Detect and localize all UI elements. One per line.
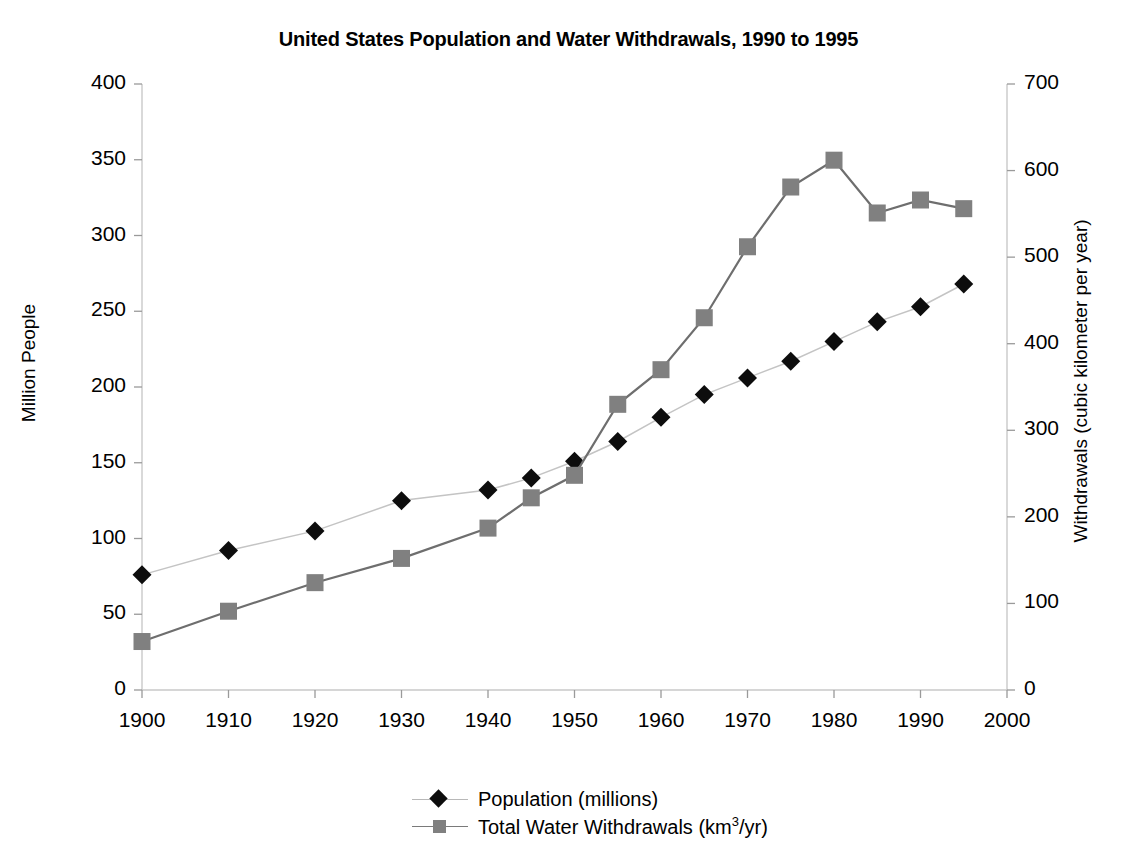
data-point: [133, 565, 152, 584]
data-point: [566, 467, 583, 484]
data-point: [609, 396, 626, 413]
data-point: [306, 521, 325, 540]
x-tick-1920: 1920: [265, 708, 365, 732]
y-tick-left-350: 350: [36, 146, 126, 170]
diamond-marker-icon: [412, 790, 468, 810]
y-tick-right-300: 300: [1024, 416, 1114, 440]
x-tick-1990: 1990: [871, 708, 971, 732]
data-point: [479, 481, 498, 500]
legend-label-withdrawals: Total Water Withdrawals (km3/yr): [478, 814, 768, 839]
data-point: [739, 238, 756, 255]
data-point: [781, 352, 800, 371]
x-tick-2000: 2000: [957, 708, 1057, 732]
y-tick-left-250: 250: [36, 297, 126, 321]
x-tick-1910: 1910: [179, 708, 279, 732]
data-point: [522, 468, 541, 487]
x-tick-1900: 1900: [92, 708, 192, 732]
data-point: [782, 179, 799, 196]
legend-label-population: Population (millions): [478, 788, 658, 811]
series-withdrawals: [134, 152, 973, 650]
y-tick-right-0: 0: [1024, 676, 1114, 700]
data-point: [307, 574, 324, 591]
y-tick-left-200: 200: [36, 373, 126, 397]
chart-container: United States Population and Water Withd…: [0, 0, 1137, 863]
data-point: [219, 541, 238, 560]
y-tick-right-600: 600: [1024, 157, 1114, 181]
legend-item-population: Population (millions): [0, 786, 1137, 813]
series-population: [133, 274, 974, 584]
y-tick-right-400: 400: [1024, 330, 1114, 354]
data-point: [955, 200, 972, 217]
data-point: [954, 274, 973, 293]
x-tick-1970: 1970: [698, 708, 798, 732]
y-tick-left-50: 50: [36, 600, 126, 624]
data-point: [738, 368, 757, 387]
data-point: [868, 312, 887, 331]
y-tick-right-100: 100: [1024, 589, 1114, 613]
data-point: [220, 603, 237, 620]
y-tick-left-0: 0: [36, 676, 126, 700]
data-point: [393, 550, 410, 567]
y-tick-right-500: 500: [1024, 243, 1114, 267]
y-tick-left-400: 400: [36, 70, 126, 94]
plot-area: [0, 0, 1137, 863]
data-point: [608, 432, 627, 451]
data-point: [911, 297, 930, 316]
data-point: [480, 520, 497, 537]
data-point: [523, 489, 540, 506]
y-tick-right-700: 700: [1024, 70, 1114, 94]
x-tick-1960: 1960: [611, 708, 711, 732]
x-tick-1940: 1940: [438, 708, 538, 732]
y-tick-left-150: 150: [36, 449, 126, 473]
axis-ticks: [134, 84, 1015, 698]
x-tick-1980: 1980: [784, 708, 884, 732]
y-tick-left-300: 300: [36, 222, 126, 246]
data-point: [696, 309, 713, 326]
data-point: [134, 633, 151, 650]
data-point: [912, 192, 929, 209]
data-point: [695, 385, 714, 404]
x-tick-1950: 1950: [525, 708, 625, 732]
data-point: [652, 408, 671, 427]
data-point: [392, 491, 411, 510]
x-tick-1930: 1930: [352, 708, 452, 732]
data-point: [826, 152, 843, 169]
chart-legend: Population (millions) Total Water Withdr…: [0, 786, 1137, 840]
axis-lines: [142, 84, 1007, 690]
data-point: [869, 204, 886, 221]
y-tick-right-200: 200: [1024, 503, 1114, 527]
square-marker-icon: [412, 817, 468, 837]
y-tick-left-100: 100: [36, 525, 126, 549]
legend-item-withdrawals: Total Water Withdrawals (km3/yr): [0, 813, 1137, 840]
data-point: [825, 332, 844, 351]
data-point: [653, 361, 670, 378]
